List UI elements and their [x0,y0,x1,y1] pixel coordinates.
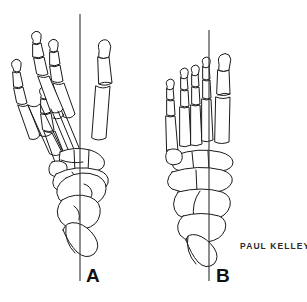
bone-a-hallux-distal [98,40,110,59]
bone-a-hallux-proximal [98,57,112,85]
artist-signature: PAUL KELLEY [240,241,307,251]
bone-b-cuboid [166,149,183,165]
bone-a-t5-distal [12,59,22,72]
bone-b-t2-proximal [203,80,211,99]
bone-a-t4-proximal [50,65,63,83]
bone-b-mt2 [202,99,213,142]
bone-b-mt5 [166,116,178,153]
bone-b-mt4 [180,107,191,147]
bone-b-mt3 [191,105,202,146]
bone-a-mt1 [92,86,110,140]
bone-a-t2-distal [32,31,42,44]
panel-b-foot [166,30,233,281]
bone-b-t3-middle [192,74,199,87]
panel-a-foot [12,14,113,281]
bone-b-t4-middle [181,77,188,90]
bone-b-t3-proximal [192,87,200,105]
figure-root: A B PAUL KELLEY [0,0,307,302]
bone-a-t2-middle [33,43,44,58]
bone-b-mt1 [215,97,230,144]
bone-b-hallux-proximal [217,70,230,96]
bone-b-t5-middle [167,88,174,100]
panel-label-b: B [216,266,230,285]
foot-skeleton-illustration [0,0,307,302]
bone-a-mt5 [18,105,40,140]
bone-b-t4-proximal [181,90,189,107]
bone-a-t4-distal [49,39,59,52]
bone-a-t2-proximal [34,57,48,76]
bone-b-t5-proximal [167,100,175,116]
panel-label-a: A [86,266,100,285]
bone-a-t5-proximal [14,87,27,105]
bone-b-hallux-distal [218,54,230,72]
bone-a-t4-middle [50,51,60,66]
bone-a-t5-middle [13,72,23,88]
